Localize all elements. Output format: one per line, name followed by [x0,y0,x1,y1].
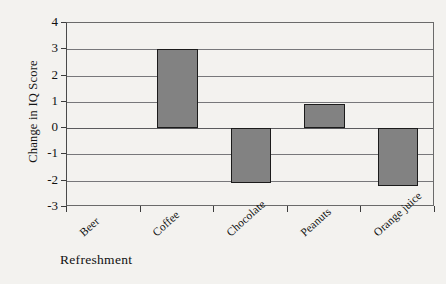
y-tick-label: 1 [18,93,58,109]
gridline-1 [67,102,433,103]
x-tick-mark [287,206,288,212]
bar [157,49,197,128]
gridline-3 [67,49,433,50]
category-label: Coffee [150,208,182,238]
category-label: Beer [77,215,101,239]
y-tick-label: -1 [18,145,58,161]
gridline-2 [67,76,433,77]
y-tick-label: -3 [18,198,58,214]
plot-area [66,22,434,206]
bar [304,104,344,128]
bar [378,128,418,186]
x-tick-mark [434,206,435,212]
x-tick-mark [140,206,141,212]
y-tick-label: 4 [18,14,58,30]
bar-chart-figure: Change in IQ Score 43210-1-2-3 BeerCoffe… [0,0,446,284]
x-tick-mark [66,206,67,212]
y-tick-label: 0 [18,119,58,135]
y-tick-label: 2 [18,67,58,83]
x-axis-title: Refreshment [60,252,132,268]
x-tick-mark [213,206,214,212]
bar [231,128,271,183]
x-tick-mark [360,206,361,212]
y-tick-label: 3 [18,40,58,56]
y-tick-label: -2 [18,172,58,188]
category-label: Peanuts [298,205,333,238]
